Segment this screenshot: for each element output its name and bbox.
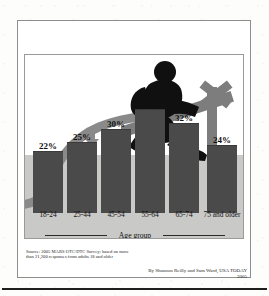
x-label-4: 65-74 [167,211,201,219]
x-axis-title-row: Age group [25,226,244,238]
x-label-1: 25-44 [65,211,99,219]
x-label-3: 55-64 [133,211,167,219]
x-axis-title: Age group [25,231,244,239]
bar-label-0: 22% [33,141,63,151]
bar-label-4: 32% [169,113,199,123]
bar-label-5: 24% [207,135,237,145]
page-bottom-rule [2,288,267,290]
byline-year: 2005 [87,274,247,280]
bar-label-3: 37% [135,99,165,109]
byline: By Shannon Reilly and Sam Ward, USA TODA… [87,268,247,280]
bar-group: 22% 25% 30% 37% 32% 24% [25,93,244,213]
source-line-2: than 21,200 responses from adults 18 and… [26,254,176,259]
chart-panel: 22% 25% 30% 37% 32% 24% 18-24 25-44 45-5… [24,54,244,239]
x-label-5: 75 and older [203,211,241,219]
x-label-0: 18-24 [31,211,65,219]
source-note: Source: 2005 MARS OTC/DTC Survey; based … [26,249,176,260]
bar-label-2: 30% [101,119,131,129]
bar-4 [169,123,199,213]
bar-5 [207,145,237,213]
bar-label-1: 25% [67,132,97,142]
bar-0 [33,151,63,213]
x-label-2: 45-54 [99,211,133,219]
bar-1 [67,142,97,213]
bar-2 [101,129,131,213]
snapshot-page: USA TODAY Snapshots® [0,0,269,296]
bar-3 [135,109,165,213]
